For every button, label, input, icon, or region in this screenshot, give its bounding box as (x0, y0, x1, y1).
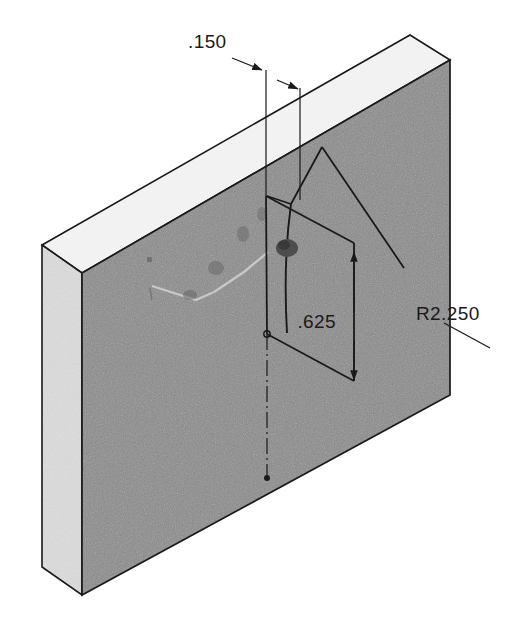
slot-left-edge (266, 196, 267, 334)
dim-r2250-leader (444, 323, 490, 348)
plate-solid (42, 35, 450, 595)
dimension-r2250-text: R2.250 (416, 303, 480, 324)
dim-150-arrow-2 (277, 80, 298, 89)
dark-pocket-mark (276, 239, 298, 257)
left-side-face (42, 245, 82, 595)
cad-drawing-svg: .150 .625 R2.250 (0, 0, 517, 634)
dimension-150-text: .150 (188, 31, 227, 52)
centerline-end-dot (264, 475, 270, 481)
dim-150-leader (232, 58, 262, 70)
technical-drawing-canvas: .150 .625 R2.250 (0, 0, 517, 634)
dimension-150-group: .150 (188, 31, 298, 89)
dimension-625-text: .625 (297, 311, 336, 332)
